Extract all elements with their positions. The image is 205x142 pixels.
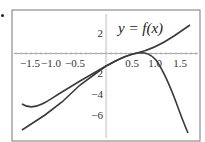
y-tick-label: 2: [98, 27, 104, 39]
chart: −1.5 −1.0 −0.5 0.5 1.0 1.5 2 −2 −4 −6 y …: [0, 0, 205, 142]
x-tick-label: −0.5: [65, 57, 85, 69]
function-label: y = f(x): [116, 20, 163, 37]
x-tick-label: −1.0: [41, 57, 61, 69]
y-tick-label: −6: [91, 109, 103, 121]
x-tick-label: 1.5: [173, 57, 187, 69]
x-tick-label: 0.5: [125, 57, 139, 69]
x-tick-label: −1.5: [20, 57, 40, 69]
y-tick-label: −4: [91, 88, 103, 100]
